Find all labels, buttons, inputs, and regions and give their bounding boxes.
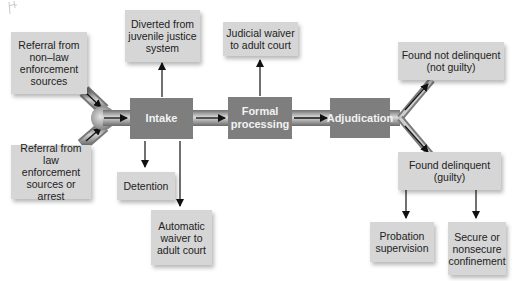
outcome-judicial-waiver: Judicial waiver to adult court bbox=[223, 22, 298, 56]
outcome-automatic-waiver: Automatic waiver to adult court bbox=[151, 210, 212, 265]
outcome-diverted: Diverted from juvenile justice system bbox=[125, 10, 200, 62]
outcome-judicial-waiver-label: Judicial waiver to adult court bbox=[226, 27, 295, 51]
outcome-automatic-waiver-label: Automatic waiver to adult court bbox=[154, 220, 209, 256]
outcome-confinement-label: Secure or nonsecure confinement bbox=[448, 231, 505, 267]
outcome-not-delinquent: Found not delinquent (not guilty) bbox=[398, 42, 504, 80]
stage-intake-label: Intake bbox=[146, 112, 178, 125]
stage-formal-processing: Formal processing bbox=[228, 97, 292, 139]
outcome-probation: Probation supervision bbox=[370, 222, 434, 262]
outcome-not-delinquent-label: Found not delinquent (not guilty) bbox=[401, 49, 501, 73]
outcome-confinement: Secure or nonsecure confinement bbox=[448, 222, 506, 275]
outcome-detention-label: Detention bbox=[124, 180, 169, 192]
outcome-probation-label: Probation supervision bbox=[373, 230, 431, 254]
source-non-law-referral: Referral from non–law enforcement source… bbox=[11, 32, 87, 94]
outcome-diverted-label: Diverted from juvenile justice system bbox=[128, 18, 197, 54]
stage-adjudication: Adjudication bbox=[330, 98, 390, 138]
stage-formal-label: Formal processing bbox=[228, 105, 292, 131]
outcome-delinquent: Found delinquent (guilty) bbox=[398, 152, 501, 190]
source-law-referral: Referral from law enforcement sources or… bbox=[11, 145, 91, 199]
source-non-law-label: Referral from non–law enforcement source… bbox=[14, 39, 84, 87]
outcome-detention: Detention bbox=[117, 172, 175, 200]
stage-adjudication-label: Adjudication bbox=[327, 112, 394, 125]
source-law-label: Referral from law enforcement sources or… bbox=[14, 142, 88, 202]
outcome-delinquent-label: Found delinquent (guilty) bbox=[401, 159, 498, 183]
stage-intake: Intake bbox=[130, 98, 193, 139]
